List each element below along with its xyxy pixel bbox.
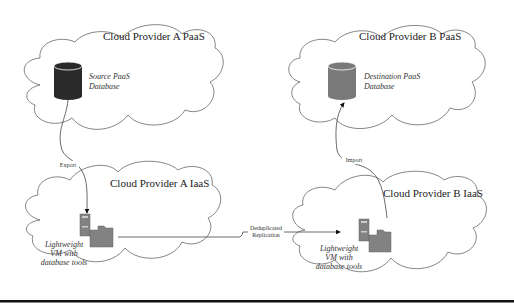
dest-db-label-line2: Database [363, 82, 395, 91]
cloud-label-a-iaas: Cloud Provider A IaaS [110, 177, 209, 189]
source-db-label-line1: Source PaaS [89, 72, 130, 81]
cloud-label-a-paas: Cloud Provider A PaaS [103, 30, 205, 42]
vm-b-label-line2: VM with [325, 253, 352, 262]
vm-a-label-line2: VM with [50, 249, 77, 258]
cloud-label-b-paas: Cloud Provider B PaaS [359, 30, 461, 42]
bottom-divider [0, 300, 514, 303]
replication-label-line2: Replication [252, 232, 280, 238]
migration-diagram: Cloud Provider A PaaS Cloud Provider B P… [0, 0, 514, 307]
export-label: Export [60, 162, 77, 168]
source-database-icon [54, 62, 82, 100]
cloud-label-b-iaas: Cloud Provider B IaaS [383, 187, 483, 199]
vm-a-label-line1: Lightweight [44, 240, 84, 249]
replication-label-line1: Deduplicated [250, 225, 282, 231]
vm-b-label-line3: database tools [316, 262, 362, 271]
cloud-provider-b-iaas: Cloud Provider B IaaS [293, 171, 487, 272]
dest-db-label-line1: Destination PaaS [363, 72, 420, 81]
vm-a-label-line3: database tools [41, 258, 87, 267]
server-icon-a [80, 214, 90, 236]
import-label: Import [346, 157, 363, 163]
vm-b-label-line1: Lightweight [319, 244, 359, 253]
destination-database-icon [328, 62, 356, 100]
source-db-label-line2: Database [88, 82, 120, 91]
server-icon-b [359, 219, 369, 241]
